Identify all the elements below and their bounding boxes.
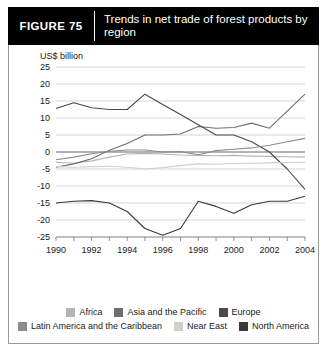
- y-tick-label: 10: [40, 113, 50, 123]
- legend-row-top: AfricaAsia and the PacificEurope: [9, 307, 318, 317]
- legend-label: Africa: [79, 307, 102, 317]
- series-line-north-america: [56, 196, 305, 235]
- x-tick-label: 2004: [295, 245, 315, 255]
- figure-number: FIGURE 75: [8, 7, 94, 45]
- legend-item-north-america[interactable]: North America: [239, 321, 309, 331]
- y-tick-label: -15: [37, 198, 50, 208]
- figure-frame: FIGURE 75 Trends in net trade of forest …: [8, 7, 319, 345]
- legend-label: North America: [252, 321, 309, 331]
- legend-item-europe[interactable]: Europe: [219, 307, 261, 317]
- series-line-europe: [56, 94, 305, 189]
- chart-legend: AfricaAsia and the PacificEurope Latin A…: [9, 307, 318, 335]
- y-tick-label: -5: [42, 164, 50, 174]
- y-tick-label: 5: [45, 130, 50, 140]
- line-chart: 2520151050-5-10-15-20-251990199219941996…: [9, 45, 318, 295]
- legend-row-bottom: Latin America and the CaribbeanNear East…: [9, 321, 318, 331]
- legend-item-latin-america-and-the-caribbean[interactable]: Latin America and the Caribbean: [18, 321, 162, 331]
- y-tick-label: -10: [37, 181, 50, 191]
- x-tick-label: 1996: [153, 245, 173, 255]
- y-tick-label: 0: [45, 147, 50, 157]
- legend-item-africa[interactable]: Africa: [66, 307, 102, 317]
- legend-swatch: [114, 308, 123, 317]
- legend-item-asia-and-the-pacific[interactable]: Asia and the Pacific: [114, 307, 206, 317]
- chart-body: US$ billion 2520151050-5-10-15-20-251990…: [8, 45, 319, 344]
- chart-plot-area: 2520151050-5-10-15-20-251990199219941996…: [9, 45, 318, 295]
- legend-swatch: [219, 308, 228, 317]
- y-tick-label: -25: [37, 232, 50, 242]
- x-tick-label: 1992: [82, 245, 102, 255]
- figure-header: FIGURE 75 Trends in net trade of forest …: [8, 7, 319, 45]
- legend-label: Latin America and the Caribbean: [31, 321, 162, 331]
- x-tick-label: 2002: [259, 245, 279, 255]
- x-tick-label: 1990: [46, 245, 66, 255]
- legend-label: Near East: [187, 321, 227, 331]
- figure-title: Trends in net trade of forest products b…: [95, 7, 319, 45]
- legend-swatch: [18, 322, 27, 331]
- y-tick-label: 25: [40, 62, 50, 72]
- y-tick-label: 15: [40, 96, 50, 106]
- legend-swatch: [174, 322, 183, 331]
- legend-swatch: [239, 322, 248, 331]
- legend-item-near-east[interactable]: Near East: [174, 321, 227, 331]
- figure-container: FIGURE 75 Trends in net trade of forest …: [0, 0, 327, 352]
- series-line-near-east: [56, 162, 305, 169]
- legend-swatch: [66, 308, 75, 317]
- x-tick-label: 1994: [117, 245, 137, 255]
- legend-label: Asia and the Pacific: [127, 307, 206, 317]
- y-tick-label: 20: [40, 79, 50, 89]
- x-tick-label: 2000: [224, 245, 244, 255]
- y-tick-label: -20: [37, 215, 50, 225]
- x-tick-label: 1998: [188, 245, 208, 255]
- legend-label: Europe: [232, 307, 261, 317]
